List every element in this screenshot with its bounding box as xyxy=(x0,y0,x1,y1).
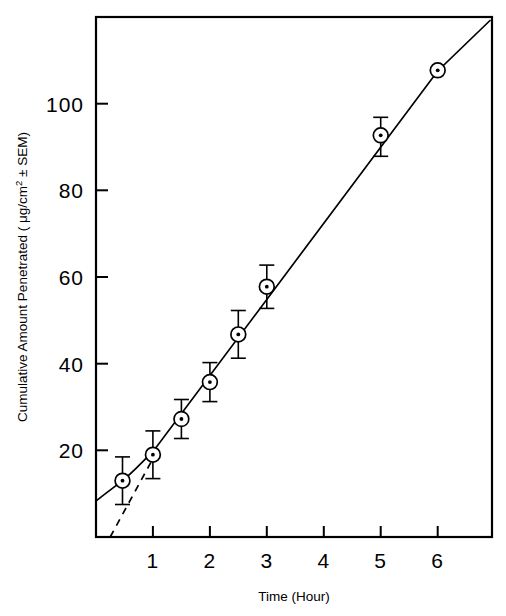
y-tick-label-60: 60 xyxy=(59,266,84,289)
marker-center-dot-icon xyxy=(265,285,269,289)
data-point-7 xyxy=(430,63,445,78)
x-axis-tick-labels: 1 2 3 4 5 6 xyxy=(147,549,444,572)
y-tick-label-100: 100 xyxy=(46,93,84,116)
x-tick-label-1: 1 xyxy=(147,549,160,572)
x-axis-ticks xyxy=(153,526,438,537)
y-tick-label-40: 40 xyxy=(59,353,84,376)
marker-center-dot-icon xyxy=(151,453,155,457)
data-point-1 xyxy=(146,447,161,462)
marker-center-dot-icon xyxy=(379,133,383,137)
y-axis-title: Cumulative Amount Penetrated ( μg/cm2 ± … xyxy=(13,132,30,422)
x-tick-label-2: 2 xyxy=(204,549,217,572)
y-tick-label-80: 80 xyxy=(59,179,84,202)
marker-center-dot-icon xyxy=(208,380,212,384)
x-tick-label-5: 5 xyxy=(374,549,387,572)
data-point-2 xyxy=(174,412,189,427)
data-point-6 xyxy=(373,128,388,143)
y-axis-ticks xyxy=(96,104,108,451)
marker-center-dot-icon xyxy=(236,333,240,337)
y-axis-title-prefix: Cumulative Amount Penetrated ( xyxy=(15,223,30,422)
y-axis-title-text: Cumulative Amount Penetrated ( μg/cm2 ± … xyxy=(13,132,30,422)
x-tick-label-6: 6 xyxy=(431,549,444,572)
data-point-5 xyxy=(259,279,274,294)
marker-center-dot-icon xyxy=(436,68,440,72)
data-point-3 xyxy=(203,375,218,390)
data-point-0 xyxy=(115,473,130,488)
y-axis-title-unit: μg/cm xyxy=(15,186,30,223)
figure-root: 20 40 60 80 100 1 2 3 4 5 6 Time (Hour) xyxy=(0,0,506,616)
marker-center-dot-icon xyxy=(180,417,184,421)
chart-canvas: 20 40 60 80 100 1 2 3 4 5 6 Time (Hour) xyxy=(0,0,506,616)
y-tick-label-20: 20 xyxy=(59,439,84,462)
y-axis-title-suffix: ± SEM) xyxy=(15,132,30,181)
x-tick-label-4: 4 xyxy=(317,549,330,572)
marker-center-dot-icon xyxy=(121,479,125,483)
fit-curve xyxy=(97,21,490,501)
x-tick-label-3: 3 xyxy=(260,549,273,572)
data-point-4 xyxy=(231,327,246,342)
x-axis-title: Time (Hour) xyxy=(258,589,330,604)
y-axis-tick-labels: 20 40 60 80 100 xyxy=(46,93,84,463)
